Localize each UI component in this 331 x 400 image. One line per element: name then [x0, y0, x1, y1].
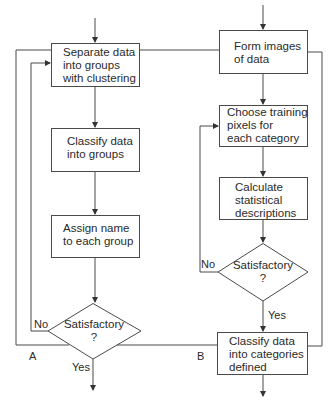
decision-right-yes-label: Yes: [268, 309, 286, 322]
decision-right-no-label: No: [201, 258, 215, 271]
loop-right-no: [200, 126, 218, 272]
loop-left-no: [31, 63, 50, 331]
marker-A: A: [29, 350, 36, 363]
decision-left-yes-label: Yes: [72, 361, 90, 374]
box-assign-name-label: Assign name to each group: [63, 222, 133, 248]
box-calculate-label: Calculate statistical descriptions: [235, 181, 296, 220]
box-choose-training-label: Choose training pixels for each category: [227, 106, 308, 145]
connector-A: [16, 50, 69, 345]
decision-right-label: Satisfactory ?: [227, 259, 299, 285]
marker-B: B: [197, 350, 204, 363]
decision-left-no-label: No: [34, 318, 48, 331]
box-classify-categories-label: Classify data into categories defined: [229, 335, 304, 374]
box-form-images-label: Form images of data: [234, 40, 301, 66]
box-separate-data-label: Separate data into groups with clusterin…: [63, 46, 136, 85]
box-classify-groups-label: Classify data into groups: [67, 135, 133, 161]
connector-right-outer: [308, 52, 322, 346]
decision-left-label: Satisfactory ?: [58, 318, 130, 344]
